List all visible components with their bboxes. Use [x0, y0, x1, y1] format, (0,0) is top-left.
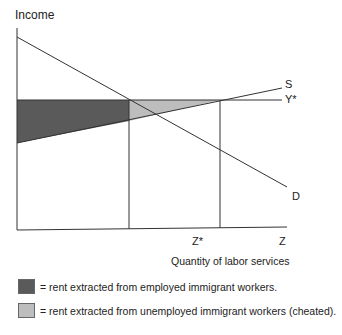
income-ystar-label: Y*	[285, 93, 297, 105]
x-tick-z: Z	[279, 235, 286, 247]
legend-item-employed: = rent extracted from employed immigrant…	[18, 279, 277, 294]
x-axis	[17, 227, 287, 230]
legend-swatch-light	[18, 303, 35, 318]
employed-rent-region	[17, 100, 129, 143]
legend-label-employed: = rent extracted from employed immigrant…	[40, 281, 277, 293]
x-tick-zstar: Z*	[192, 235, 203, 247]
y-axis-label: Income	[15, 8, 54, 22]
legend-label-unemployed: = rent extracted from unemployed immigra…	[40, 305, 336, 317]
legend-item-unemployed: = rent extracted from unemployed immigra…	[18, 303, 336, 318]
x-axis-label: Quantity of labor services	[171, 255, 289, 267]
legend-swatch-dark	[18, 279, 35, 294]
demand-label: D	[292, 190, 300, 202]
supply-label: S	[285, 78, 292, 90]
